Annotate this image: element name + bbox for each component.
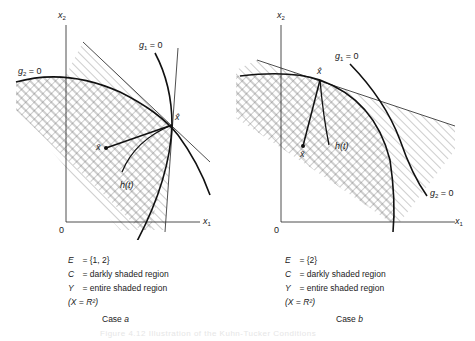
figure-caption: Figure 4.12 Illustration of the Kuhn-Tuc… xyxy=(100,329,316,338)
g1-label: g1 = 0 xyxy=(335,51,359,61)
legend-row: Y = entire shaded region xyxy=(285,281,386,295)
h-label: h(t) xyxy=(120,180,134,190)
legend-row: E = {1, 2} xyxy=(68,253,169,267)
x2-axis-label: x2 xyxy=(58,10,66,20)
legend-row: E = {2} xyxy=(285,253,386,267)
g2-label: g2 = 0 xyxy=(430,188,454,198)
g2-label: g2 = 0 xyxy=(18,66,42,76)
x-hat-label: x̂ xyxy=(175,112,180,122)
legend-row: C = darkly shaded region xyxy=(68,267,169,281)
legend-row: C = darkly shaded region xyxy=(285,267,386,281)
g1-label: g1 = 0 xyxy=(139,40,163,50)
case-a-label: Case a xyxy=(102,314,129,324)
x1-axis-label: x1 xyxy=(203,216,211,226)
origin-label: 0 xyxy=(59,225,64,235)
x-bar-label: x̄ xyxy=(96,142,101,152)
legend-row: Y = entire shaded region xyxy=(68,281,169,295)
case-b-label: Case b xyxy=(336,314,363,324)
region-c-crosshatch xyxy=(16,77,172,230)
panel-case-a xyxy=(16,25,210,245)
x2-axis-label: x2 xyxy=(277,10,285,20)
legend-case-b: E = {2} C = darkly shaded region Y = ent… xyxy=(285,253,386,309)
x-bar-point xyxy=(104,146,108,150)
legend-row: (X = R²) xyxy=(68,295,169,309)
x-bar-point xyxy=(301,144,305,148)
legend-case-a: E = {1, 2} C = darkly shaded region Y = … xyxy=(68,253,169,309)
x-hat-label: x̂ xyxy=(317,66,322,76)
x-bar-label: x̄ xyxy=(300,149,305,159)
x1-axis-label: x1 xyxy=(455,216,463,226)
legend-row: (X = R²) xyxy=(285,295,386,309)
origin-label: 0 xyxy=(274,225,279,235)
h-label: h(t) xyxy=(335,141,349,151)
